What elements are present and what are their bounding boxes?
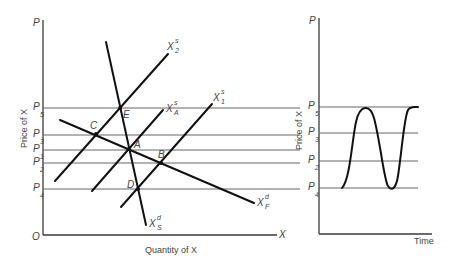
svg-text:P: P (308, 154, 315, 165)
svg-text:P: P (308, 126, 315, 137)
point-b (159, 161, 163, 165)
svg-text:3: 3 (40, 138, 44, 145)
svg-text:4: 4 (315, 191, 319, 198)
point-a (127, 147, 131, 151)
right-price-label-p4: P 4 (308, 181, 319, 198)
svg-text:d: d (157, 214, 162, 221)
left-panel: P X O Quantity of X Price of X P 5 P 3 P… (19, 17, 300, 255)
svg-text:P: P (308, 181, 315, 192)
point-c (94, 132, 98, 136)
right-price-label-p3: P 3 (308, 126, 319, 143)
x-axis-title: Quantity of X (145, 245, 197, 255)
supply-curve-x1 (121, 104, 212, 207)
left-y-axis-label: P (33, 17, 40, 28)
demand-curve-xf (60, 120, 254, 203)
label-xf-demand: X d F (256, 193, 270, 210)
time-axis-title: Time (414, 236, 434, 246)
point-e-label: E (123, 109, 130, 120)
label-x1-supply: X s 1 (212, 88, 225, 105)
svg-text:P: P (308, 100, 315, 111)
right-y-axis-title: Price of X (294, 111, 304, 150)
supply-curve-x2 (55, 54, 168, 181)
point-e (118, 106, 122, 110)
svg-text:X: X (165, 103, 173, 114)
svg-text:X: X (166, 41, 174, 52)
right-y-axis-label: P (309, 15, 316, 26)
right-price-label-p2: P 2 (308, 154, 319, 171)
svg-text:P: P (33, 101, 40, 112)
svg-text:3: 3 (315, 136, 319, 143)
svg-text:1: 1 (221, 98, 225, 105)
svg-text:1: 1 (40, 153, 44, 160)
label-xs-demand: X d S (148, 214, 162, 231)
svg-text:2: 2 (174, 47, 179, 54)
svg-text:P: P (33, 143, 40, 154)
svg-text:2: 2 (39, 166, 44, 173)
svg-text:F: F (265, 203, 270, 210)
y-axis-title: Price of X (19, 109, 29, 148)
svg-text:s: s (175, 37, 179, 44)
svg-text:4: 4 (40, 192, 44, 199)
point-c-label: C (90, 120, 98, 131)
origin-label: O (32, 231, 40, 242)
svg-text:X: X (148, 218, 156, 229)
svg-text:s: s (174, 99, 178, 106)
demand-curve-xs (106, 42, 146, 225)
right-panel: P Time Price of X P 5 P 3 P 2 P 4 (294, 15, 434, 246)
svg-text:s: s (221, 88, 225, 95)
point-d (136, 187, 140, 191)
svg-text:5: 5 (40, 111, 44, 118)
svg-text:P: P (33, 156, 40, 167)
svg-text:P: P (33, 128, 40, 139)
price-oscillation-curve (342, 107, 418, 189)
point-d-label: D (127, 179, 134, 190)
svg-text:2: 2 (314, 164, 319, 171)
label-x2-supply: X s 2 (166, 37, 179, 54)
svg-text:X: X (212, 92, 220, 103)
point-b-label: B (158, 149, 165, 160)
svg-text:S: S (157, 224, 162, 231)
svg-text:A: A (173, 109, 179, 116)
svg-text:X: X (256, 197, 264, 208)
left-x-axis-label: X (278, 229, 286, 240)
cobweb-diagram: P X O Quantity of X Price of X P 5 P 3 P… (0, 0, 454, 263)
point-a-label: A (133, 139, 141, 150)
svg-text:d: d (265, 193, 270, 200)
svg-text:P: P (33, 182, 40, 193)
right-price-label-p5: P 5 (308, 100, 319, 117)
svg-text:5: 5 (315, 110, 319, 117)
